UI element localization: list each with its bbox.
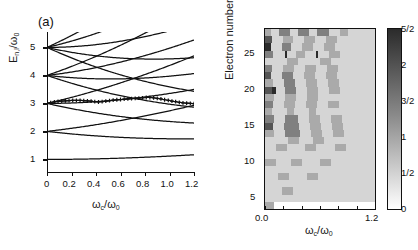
- panel-a-curves: [47, 32, 194, 172]
- chemical-potential-marker: [159, 97, 163, 101]
- chemical-potential-marker: [67, 99, 71, 103]
- energy-curve: [47, 32, 170, 47]
- chemical-potential-marker: [97, 100, 101, 104]
- panel-b-xticklabel: 0.0: [255, 212, 268, 223]
- panel-b-xtick: [265, 206, 266, 210]
- chemical-potential-marker: [78, 98, 82, 102]
- panel-b-yticklabel: 15: [244, 119, 255, 130]
- panel-a-yticklabel: 2: [30, 125, 35, 136]
- panel-a-yticklabel: 5: [30, 41, 35, 52]
- panel-b-xtick: [320, 206, 321, 210]
- panel-a-ytick: [43, 103, 47, 104]
- chemical-potential-marker: [71, 98, 75, 102]
- panel-a-xticklabel: 0: [44, 178, 49, 189]
- panel-a-ylabel: En,l/ω0: [7, 33, 20, 63]
- chemical-potential-marker: [108, 99, 112, 103]
- panel-a-xtick: [47, 172, 48, 176]
- panel-b: (b) Electron number N ωc/ω0 510152025 0.…: [209, 0, 418, 250]
- chemical-potential-marker: [47, 102, 49, 106]
- chemical-potential-marker: [155, 96, 159, 100]
- panel-b-xticklabel: 1.2: [365, 212, 378, 223]
- heatmap-cell: [265, 209, 375, 210]
- panel-a-xticklabel: 0.4: [87, 178, 100, 189]
- panel-b-yticklabel: 25: [244, 47, 255, 58]
- panel-a-xticklabel: 0.6: [112, 178, 125, 189]
- heatmap-row: [265, 209, 375, 210]
- panel-b-yticklabel: 5: [250, 191, 255, 202]
- colorbar-ticklabel: 5/2: [401, 23, 414, 34]
- panel-b-xtick: [283, 206, 284, 210]
- chemical-potential-marker: [93, 100, 97, 104]
- colorbar-ticklabel: 3/2: [401, 95, 414, 106]
- panel-a-ytick: [43, 131, 47, 132]
- panel-a-yticklabel: 3: [30, 97, 35, 108]
- chemical-potential-marker: [104, 99, 108, 103]
- energy-curve: [47, 47, 194, 91]
- panel-a-xticklabel: 0.8: [136, 178, 149, 189]
- chemical-potential-marker: [133, 96, 137, 100]
- panel-a-ytick: [43, 75, 47, 76]
- panel-a-xtick: [145, 172, 146, 176]
- panel-a-yticklabel: 1: [30, 153, 35, 164]
- colorbar-ticklabel: 0: [401, 203, 406, 214]
- panel-a-xticklabel: 1.2: [185, 178, 198, 189]
- colorbar-ticklabel: 2: [401, 59, 406, 70]
- colorbar-ticklabel: 1/2: [401, 167, 414, 178]
- chemical-potential-marker: [163, 98, 167, 102]
- panel-b-ylabel: Electron number N: [223, 0, 235, 80]
- energy-curve: [47, 131, 194, 139]
- colorbar: [387, 28, 402, 210]
- panel-a-xticklabel: 1.0: [161, 178, 174, 189]
- chemical-potential-marker: [119, 98, 123, 102]
- energy-curve: [47, 105, 194, 131]
- colorbar-ticklabel: 1: [401, 131, 406, 142]
- chemical-potential-marker: [75, 98, 79, 102]
- chemical-potential-marker: [174, 100, 178, 104]
- panel-b-yticklabel: 20: [244, 83, 255, 94]
- chemical-potential-marker: [100, 100, 104, 104]
- panel-a-xlabel: ωc/ω0: [92, 198, 120, 211]
- chemical-potential-marker: [111, 98, 115, 102]
- energy-curve: [47, 155, 194, 160]
- panel-b-yticklabel: 10: [244, 155, 255, 166]
- panel-b-heatmap: [264, 28, 376, 210]
- panel-a-xticklabel: 0.2: [63, 178, 76, 189]
- chemical-potential-marker: [115, 98, 119, 102]
- panel-a-xtick: [121, 172, 122, 176]
- panel-a-xtick: [170, 172, 171, 176]
- chemical-potential-marker: [177, 100, 181, 104]
- panel-b-xtick: [302, 206, 303, 210]
- panel-a-xtick: [194, 172, 195, 176]
- panel-b-xlabel: ωc/ω0: [305, 224, 333, 237]
- panel-a-axes: [47, 32, 194, 172]
- panel-a-ytick: [43, 159, 47, 160]
- panel-b-xtick: [375, 206, 376, 210]
- chemical-potential-marker: [188, 102, 192, 106]
- chemical-potential-marker: [122, 97, 126, 101]
- panel-a-xtick: [96, 172, 97, 176]
- panel-a-ytick: [43, 47, 47, 48]
- panel-b-xtick: [357, 206, 358, 210]
- chemical-potential-marker: [185, 101, 189, 105]
- colorbar-gradient: [388, 29, 401, 209]
- panel-a-tag: (a): [38, 14, 54, 29]
- panel-b-xtick: [338, 206, 339, 210]
- chemical-potential-marker: [166, 98, 170, 102]
- panel-a-yticklabel: 4: [30, 69, 35, 80]
- panel-a-xtick: [72, 172, 73, 176]
- heatmap-row-group: [265, 29, 375, 209]
- chemical-potential-marker: [181, 101, 185, 105]
- panel-a: (a) En,l/ω0 ωc/ω0 12345 00.20.40.60.81.0…: [0, 0, 209, 250]
- figure-root: (a) En,l/ω0 ωc/ω0 12345 00.20.40.60.81.0…: [0, 0, 418, 250]
- chemical-potential-marker: [170, 99, 174, 103]
